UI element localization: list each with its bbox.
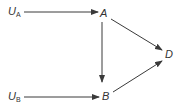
node-ua-subscript: A <box>16 11 21 18</box>
node-ub: UB <box>8 91 21 103</box>
causal-diagram: UA A D B UB <box>0 0 182 109</box>
edge-a-to-d <box>111 19 162 50</box>
node-b: B <box>102 91 109 102</box>
node-ub-subscript: B <box>16 96 21 103</box>
node-d-label: D <box>165 48 173 60</box>
node-a-label: A <box>100 7 107 19</box>
node-ua-main: U <box>8 5 16 17</box>
node-ua: UA <box>8 6 21 18</box>
edge-b-to-d <box>113 61 162 92</box>
node-a: A <box>100 8 107 19</box>
node-d: D <box>165 49 173 60</box>
node-ub-main: U <box>8 90 16 102</box>
node-b-label: B <box>102 90 109 102</box>
diagram-edges <box>0 0 182 109</box>
